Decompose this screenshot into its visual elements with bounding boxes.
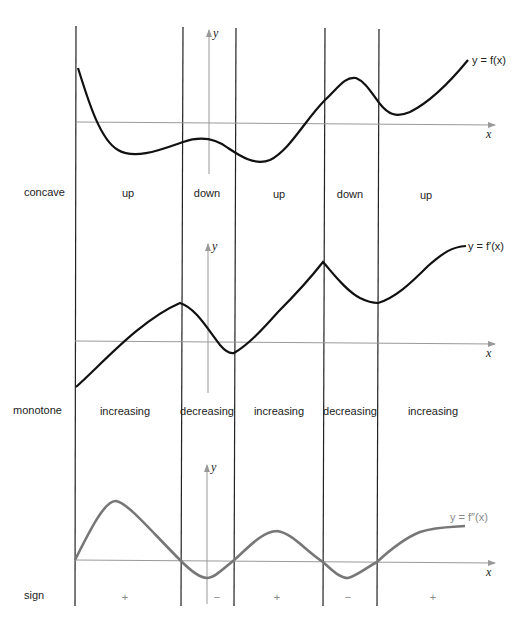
x-axis-label: x <box>485 127 492 141</box>
interval-label: increasing <box>254 405 304 417</box>
sign-labels: + − + − + <box>122 591 436 603</box>
calculus-diagram: y x y = f(x) concave up down up down up … <box>0 0 515 622</box>
curve-fdoubleprime <box>75 501 465 578</box>
monotonicity-labels: increasing decreasing increasing decreas… <box>100 405 458 417</box>
x-axis <box>76 122 495 125</box>
curve-label-fprime: y = f′(x) <box>468 240 504 252</box>
interval-label: down <box>194 187 220 199</box>
interval-label: + <box>122 591 128 603</box>
divider-line <box>75 26 76 606</box>
interval-label: − <box>214 591 220 603</box>
interval-label: down <box>337 188 363 200</box>
curve-fprime <box>76 246 466 387</box>
row-label-monotone: monotone <box>13 404 62 416</box>
y-axis-label: y <box>210 460 217 474</box>
curve-f <box>78 60 468 162</box>
row-label-sign: sign <box>24 589 44 601</box>
curve-label-f: y = f(x) <box>472 54 506 66</box>
x-axis <box>75 341 495 344</box>
interval-label: up <box>122 187 134 199</box>
interval-label: decreasing <box>180 405 234 417</box>
panel-fprime: y x y = f′(x) <box>75 239 504 393</box>
interval-label: up <box>420 189 432 201</box>
divider-line <box>234 28 236 606</box>
x-axis-label: x <box>485 346 492 360</box>
interval-dividers <box>75 26 379 606</box>
interval-label: + <box>430 591 436 603</box>
divider-line <box>377 29 379 606</box>
divider-line <box>181 27 183 606</box>
panel-fdoubleprime: y x y = f″(x) <box>75 460 495 604</box>
interval-label: increasing <box>100 405 150 417</box>
divider-line <box>323 28 325 606</box>
row-label-concave: concave <box>24 186 65 198</box>
interval-label: increasing <box>408 405 458 417</box>
interval-label: + <box>274 591 280 603</box>
y-axis-label: y <box>211 239 218 253</box>
x-axis <box>75 560 495 563</box>
y-axis-label: y <box>212 26 219 40</box>
curve-label-fdoubleprime: y = f″(x) <box>450 511 488 523</box>
interval-label: up <box>273 188 285 200</box>
interval-label: − <box>345 591 351 603</box>
x-axis-label: x <box>485 565 492 579</box>
interval-label: decreasing <box>323 405 377 417</box>
concavity-labels: up down up down up <box>122 187 432 201</box>
panel-f: y x y = f(x) <box>76 26 506 174</box>
